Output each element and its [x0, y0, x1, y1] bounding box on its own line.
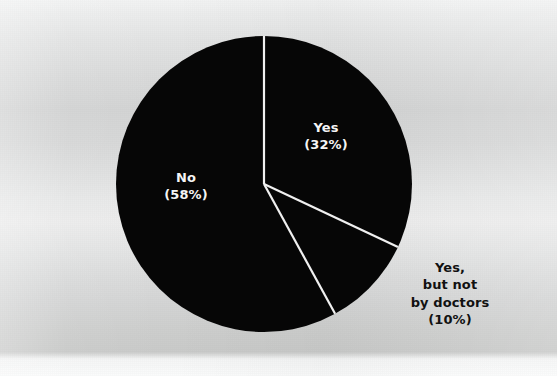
pie-chart-figure: Yes (32%) No (58%) Yes, but not by docto… [0, 0, 557, 376]
slice-label-yes-but-not-by-doctors: Yes, but not by doctors (10%) [389, 259, 511, 329]
slice-label-no: No (58%) [146, 170, 226, 204]
slice-label-yes: Yes (32%) [286, 120, 366, 154]
